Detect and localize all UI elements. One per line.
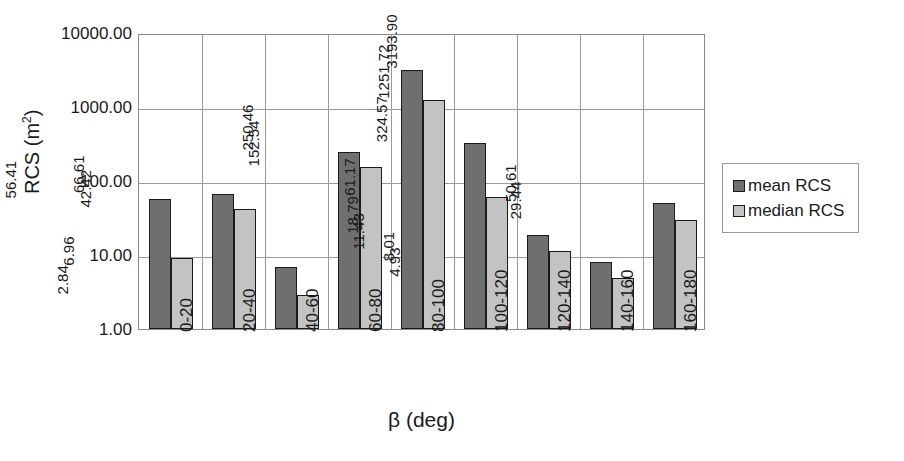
x-axis-tick-label: 120-140 — [556, 270, 573, 332]
x-axis-tick-label: 100-120 — [493, 270, 510, 332]
legend-item: median RCS — [733, 198, 844, 223]
bar-mean — [653, 203, 675, 329]
legend-item: mean RCS — [733, 173, 844, 198]
x-axis-tick-label: 80-100 — [430, 279, 447, 332]
bar-value-label: 6.96 — [61, 236, 292, 265]
bar-value-label: 324.57 — [373, 96, 480, 142]
y-axis-tick-label: 10000.00 — [24, 25, 132, 42]
x-axis-tick-label: 60-80 — [367, 289, 384, 332]
bar-value-label: 2.84 — [54, 265, 313, 294]
bar-value-label: 42.42 — [78, 170, 251, 208]
legend-swatch-median — [733, 205, 745, 217]
bar-value-label: 1251.72 — [376, 45, 440, 99]
x-axis-title: β (deg) — [138, 408, 705, 432]
y-axis-tick-label: 1000.00 — [24, 99, 132, 116]
x-axis-tick-label: 0-20 — [178, 298, 195, 332]
chart-legend: mean RCSmedian RCS — [722, 163, 859, 233]
y-axis-tick-label: 1.00 — [24, 321, 132, 338]
x-axis-tick-label: 140-160 — [619, 270, 636, 332]
x-axis-tick-label: 160-180 — [682, 270, 699, 332]
legend-label: median RCS — [748, 202, 844, 219]
x-axis-tick-label: 40-60 — [304, 289, 321, 332]
bar-value-label: 29.44 — [507, 182, 691, 220]
x-axis-tick-label: 20-40 — [241, 289, 258, 332]
legend-label: mean RCS — [748, 177, 831, 194]
x-axis-tick-labels: 0-2020-4040-6060-8080-100100-120120-1401… — [138, 332, 705, 412]
gridline-category-separator — [328, 35, 329, 329]
rcs-bar-chart: RCS (m2) 10000.001000.00100.0010.001.00 … — [0, 0, 904, 461]
legend-swatch-mean — [733, 180, 745, 192]
bar-value-label: 61.17 — [342, 158, 503, 196]
